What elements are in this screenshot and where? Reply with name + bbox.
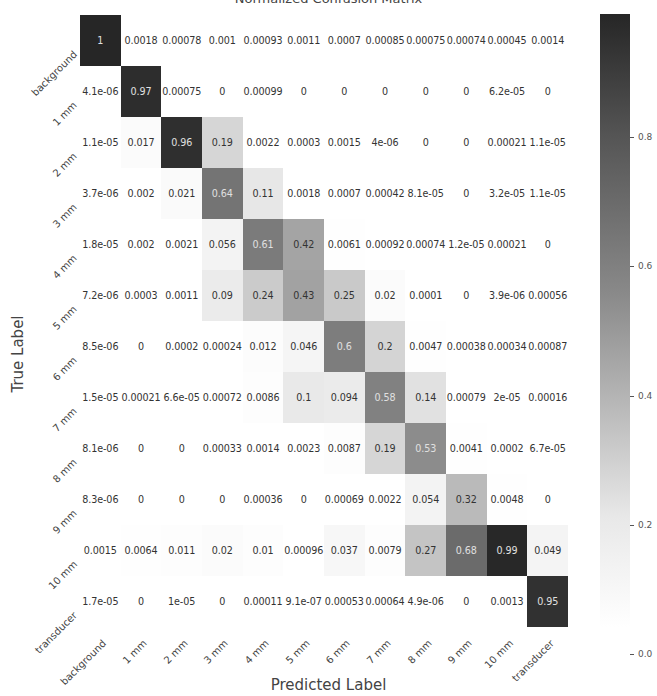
heatmap-cell: 0.017 (121, 117, 162, 168)
heatmap-cell: 0.056 (202, 219, 243, 270)
heatmap-cell: 4e-06 (365, 117, 406, 168)
heatmap-cell: 0.0079 (365, 525, 406, 576)
heatmap-cell: 0 (405, 66, 446, 117)
colorbar (600, 14, 630, 627)
heatmap-cell: 0.24 (243, 270, 284, 321)
heatmap-cell: 3.2e-05 (487, 168, 528, 219)
heatmap-cell: 0.049 (527, 525, 568, 576)
heatmap-cell: 0.011 (161, 525, 202, 576)
heatmap-cell: 0.1 (283, 372, 324, 423)
heatmap-cell: 0.00087 (527, 321, 568, 372)
heatmap-cell: 0.00034 (487, 321, 528, 372)
y-tick-label: 6 mm (51, 354, 79, 382)
colorbar-tick-label: 0.0 (630, 649, 652, 659)
heatmap-cell: 0.0021 (161, 219, 202, 270)
heatmap-cell: 0 (202, 66, 243, 117)
heatmap-cell: 0 (446, 270, 487, 321)
x-tick-label: 2 mm (161, 638, 189, 666)
heatmap-cell: 1 (80, 15, 121, 66)
heatmap-cell: 0 (161, 474, 202, 525)
heatmap-cell: 8.3e-06 (80, 474, 121, 525)
heatmap-cell: 0.00085 (365, 15, 406, 66)
heatmap-cell: 8.1e-05 (405, 168, 446, 219)
heatmap-cell: 0.0002 (487, 423, 528, 474)
heatmap-cell: 0.021 (161, 168, 202, 219)
heatmap-cell: 0.0011 (283, 15, 324, 66)
heatmap-cell: 0.00056 (527, 270, 568, 321)
heatmap-cell: 0.09 (202, 270, 243, 321)
heatmap-cell: 0.01 (243, 525, 284, 576)
heatmap-cell: 0 (121, 321, 162, 372)
heatmap-cell: 0.0003 (283, 117, 324, 168)
heatmap-cell: 0.00079 (446, 372, 487, 423)
y-tick-label: background (29, 48, 79, 98)
heatmap-cell: 0.00093 (243, 15, 284, 66)
heatmap-cell: 0.53 (405, 423, 446, 474)
heatmap-cell: 0.14 (405, 372, 446, 423)
heatmap-cell: 0 (283, 66, 324, 117)
heatmap-cell: 0.0064 (121, 525, 162, 576)
heatmap-cell: 0 (446, 576, 487, 627)
heatmap-cell: 0 (365, 66, 406, 117)
heatmap-cell: 0.27 (405, 525, 446, 576)
heatmap-cell: 0.002 (121, 168, 162, 219)
x-axis-label: Predicted Label (0, 676, 657, 694)
y-tick-label: 5 mm (51, 303, 79, 331)
heatmap-cell: 1.1e-05 (527, 168, 568, 219)
heatmap-cell: 9.1e-07 (283, 576, 324, 627)
heatmap-cell: 0.00078 (161, 15, 202, 66)
heatmap-cell: 0.00075 (161, 66, 202, 117)
heatmap-cell: 0.00069 (324, 474, 365, 525)
heatmap-cell: 0.094 (324, 372, 365, 423)
heatmap-cell: 0 (202, 576, 243, 627)
x-tick-label: 9 mm (446, 638, 474, 666)
heatmap-cell: 0.0041 (446, 423, 487, 474)
heatmap-cell: 8.5e-06 (80, 321, 121, 372)
heatmap-cell: 0.00099 (243, 66, 284, 117)
heatmap-cell: 4.9e-06 (405, 576, 446, 627)
heatmap-cell: 1e-05 (161, 576, 202, 627)
heatmap-cell: 0.97 (121, 66, 162, 117)
heatmap-cell: 0 (527, 66, 568, 117)
heatmap-cell: 0.2 (365, 321, 406, 372)
heatmap-cell: 0.00011 (243, 576, 284, 627)
heatmap-cell: 0.11 (243, 168, 284, 219)
heatmap-cell: 0.32 (446, 474, 487, 525)
heatmap-cell: 0.00024 (202, 321, 243, 372)
heatmap-cell: 0.001 (202, 15, 243, 66)
heatmap-cell: 0.00096 (283, 525, 324, 576)
heatmap-cell: 0 (324, 66, 365, 117)
heatmap-cell: 0.00038 (446, 321, 487, 372)
heatmap-cell: 0.58 (365, 372, 406, 423)
heatmap-cell: 0.00021 (121, 372, 162, 423)
x-tick-label: 3 mm (202, 638, 230, 666)
heatmap-cell: 0.19 (365, 423, 406, 474)
heatmap-cell: 0.012 (243, 321, 284, 372)
chart-title: Normalized Confusion Matrix (0, 0, 657, 6)
heatmap-cell: 1.5e-05 (80, 372, 121, 423)
y-tick-label: 9 mm (51, 507, 79, 535)
heatmap-cell: 0.00036 (243, 474, 284, 525)
heatmap-cell: 0 (202, 474, 243, 525)
heatmap-cell: 0.25 (324, 270, 365, 321)
colorbar-tick-label: 0.2 (630, 520, 652, 530)
heatmap-cell: 3.9e-06 (487, 270, 528, 321)
heatmap-cell: 0.95 (527, 576, 568, 627)
heatmap-cell: 0.0086 (243, 372, 284, 423)
heatmap-cell: 0.0007 (324, 168, 365, 219)
y-tick-label: 4 mm (51, 252, 79, 280)
heatmap-cell: 0.0014 (243, 423, 284, 474)
heatmap-cell: 0.0061 (324, 219, 365, 270)
y-tick-label: 8 mm (51, 456, 79, 484)
heatmap-cell: 0.68 (446, 525, 487, 576)
heatmap-cell: 0.0001 (405, 270, 446, 321)
heatmap-cell: 0.00075 (405, 15, 446, 66)
heatmap-cell: 0.00064 (365, 576, 406, 627)
heatmap-cell: 0.00045 (487, 15, 528, 66)
heatmap-cell: 0.6 (324, 321, 365, 372)
heatmap-cell: 0.00092 (365, 219, 406, 270)
heatmap-cell: 0.037 (324, 525, 365, 576)
heatmap-cell: 0.0022 (365, 474, 406, 525)
heatmap-cell: 0 (446, 66, 487, 117)
heatmap-cell: 0.00016 (527, 372, 568, 423)
